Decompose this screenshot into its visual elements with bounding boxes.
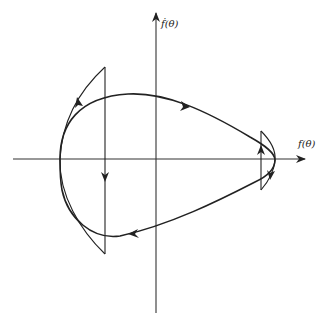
orbit-arrow-top-icon [180,101,190,111]
closed-orbit [60,94,275,237]
right-switching-region [261,131,275,190]
right-outer-arc [261,131,275,190]
y-axis-label: ḟ(θ) [161,18,179,29]
phase-portrait-diagram [0,0,329,327]
left-switching-region [60,67,105,254]
orbit-arrow-bottom-icon [128,229,139,238]
x-axis-label: f(θ) [298,138,316,149]
left-outer-arc [60,67,105,254]
